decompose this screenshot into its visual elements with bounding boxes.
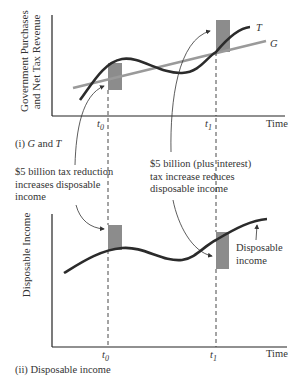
- caption-and: and: [38, 138, 53, 149]
- top-y-title-line1: Government Purchases: [18, 12, 30, 112]
- bottom-x-axis-label: Time: [266, 348, 288, 360]
- top-y-title-line2: and Net Tax Revenue: [30, 12, 42, 112]
- g-line: [73, 41, 266, 88]
- bottom-panel: [52, 214, 287, 347]
- bottom-y-axis-title: Disposable Income: [20, 200, 32, 310]
- top-panel-caption: (i) G and T: [15, 138, 61, 150]
- left-annotation: $5 billion tax reduction increases dispo…: [15, 166, 113, 204]
- top-x-axis-label: Time: [266, 118, 288, 130]
- top-y-axis-title: Government Purchases and Net Tax Revenue: [18, 12, 42, 112]
- right-annotation-line2: tax increase reduces: [150, 171, 251, 184]
- top-t0-label: t0: [97, 118, 104, 134]
- bottom-t1-label: t1: [210, 349, 217, 365]
- left-arrow-down: [76, 205, 104, 229]
- t-curve-label: T: [256, 22, 262, 34]
- left-annotation-line1: $5 billion tax reduction: [15, 166, 113, 179]
- bottom-t0-sub: 0: [105, 354, 109, 363]
- top-t1-sub: 1: [208, 123, 212, 132]
- disposable-income-label: Disposable income: [236, 242, 283, 267]
- bottom-t0-label: t0: [102, 349, 109, 365]
- bottom-shade-t0: [108, 225, 122, 250]
- bottom-y-title: Disposable Income: [20, 200, 32, 310]
- caption-t: T: [56, 138, 62, 149]
- caption-prefix: (i): [15, 138, 25, 149]
- right-annotation-line3: disposable income: [150, 183, 251, 196]
- top-t0-sub: 0: [100, 123, 104, 132]
- bottom-panel-caption: (ii) Disposable income: [15, 364, 111, 376]
- right-annotation: $5 billion (plus interest) tax increase …: [150, 158, 251, 196]
- right-annotation-line1: $5 billion (plus interest): [150, 158, 251, 171]
- bottom-t1-sub: 1: [213, 354, 217, 363]
- top-t1-label: t1: [205, 118, 212, 134]
- caption-g: G: [28, 138, 36, 149]
- left-annotation-line2: increases disposable: [15, 179, 113, 192]
- curve-label-arrow: [256, 225, 257, 240]
- top-shade-t1: [216, 20, 230, 52]
- curve-label-line2: income: [236, 255, 283, 268]
- g-line-label: G: [270, 38, 278, 50]
- top-panel: [52, 15, 285, 116]
- curve-label-line1: Disposable: [236, 242, 283, 255]
